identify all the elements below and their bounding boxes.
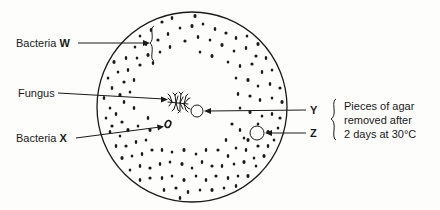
bacteria-dot: [135, 140, 138, 144]
label-fungus: Fungus: [18, 87, 55, 99]
bacteria-dot: [227, 154, 230, 158]
bacteria-dot: [245, 46, 248, 50]
bacteria-dot: [171, 16, 174, 20]
bacteria-dot: [233, 50, 236, 53]
bacteria-dot: [257, 85, 260, 88]
bacteria-dot: [237, 175, 240, 178]
bacteria-dot: [182, 178, 185, 182]
bacteria-dot: [280, 100, 283, 104]
bacteria-dot: [230, 123, 233, 126]
bacteria-dot: [262, 154, 265, 158]
bacteria-dot: [137, 125, 140, 128]
bacteria-dot: [253, 157, 256, 160]
bacteria-dot: [220, 43, 223, 47]
bacteria-dot: [210, 54, 213, 58]
note-line-1: Pieces of agar: [344, 100, 415, 112]
diagram-canvas: Bacteria W Fungus Y Z Bacteria X: [0, 0, 440, 210]
bacteria-dot: [224, 32, 227, 35]
bacteria-dot: [246, 174, 249, 178]
bacteria-dot: [146, 53, 149, 57]
fungus-mycelium-icon: [168, 92, 190, 113]
bacteria-dot: [248, 95, 251, 98]
bacteria-dot: [169, 161, 172, 164]
bacteria-dot: [152, 61, 155, 65]
bacteria-dot: [214, 27, 217, 31]
bacteria-dot: [243, 137, 246, 140]
bacteria-dot: [179, 27, 182, 30]
bacteria-dot: [129, 91, 132, 94]
bacteria-dot: [259, 98, 262, 102]
bacteria-dot: [182, 148, 185, 152]
bacteria-dot: [187, 190, 190, 194]
bacteria-dot: [271, 97, 274, 100]
bacteria-dot: [210, 188, 213, 192]
bacteria-dot: [278, 87, 281, 90]
bacteria-dot: [163, 188, 166, 192]
bacteria-dot: [159, 162, 162, 166]
bacteria-dot: [139, 35, 142, 38]
bacteria-dot: [245, 148, 248, 152]
bacteria-dot: [159, 51, 162, 54]
bacteria-dot: [105, 117, 108, 120]
bacteria-dot: [235, 147, 238, 150]
bacteria-dot: [250, 63, 253, 66]
bacteria-dot: [246, 138, 249, 142]
agar-hole-z: [250, 126, 264, 140]
bacteria-dot: [246, 78, 249, 82]
bacteria-dot: [150, 149, 153, 152]
arrowhead-bacteria-x: [157, 125, 164, 131]
bacteria-dot: [255, 165, 258, 168]
bacteria-dot: [278, 117, 281, 120]
bacteria-dot: [271, 69, 274, 72]
bacteria-dot: [227, 176, 230, 180]
note-line-2: removed after: [344, 114, 412, 126]
bacteria-dot: [160, 21, 163, 24]
bacteria-dot: [148, 177, 151, 180]
bacteria-dot: [256, 145, 259, 148]
bacteria-dot: [112, 60, 115, 64]
bacteria-dot: [193, 14, 196, 18]
bacteria-x-colony: [164, 120, 172, 129]
bacteria-dot: [179, 196, 182, 200]
bacteria-dot: [273, 139, 276, 142]
bacteria-dot: [257, 123, 260, 126]
bacteria-dot: [191, 167, 194, 170]
arrow-line-fungus: [58, 93, 164, 99]
bacteria-dot: [123, 100, 126, 104]
bacteria-dot: [115, 112, 118, 116]
arrow-line-y: [208, 110, 306, 111]
bacteria-dot: [117, 71, 120, 74]
bacteria-dot: [133, 78, 136, 82]
label-y: Y: [310, 104, 318, 116]
agar-plate-diagram: Bacteria W Fungus Y Z Bacteria X: [0, 0, 440, 210]
bacteria-dot: [139, 178, 142, 182]
bacteria-dot: [239, 128, 242, 132]
bacteria-dot: [110, 125, 113, 128]
bacteria-dot: [256, 42, 259, 46]
bacteria-dot: [120, 156, 123, 160]
bacteria-dot: [133, 106, 136, 110]
bacteria-dot: [195, 175, 198, 178]
bacteria-dot: [124, 145, 127, 148]
bacteria-dot: [136, 57, 139, 60]
bacteria-dot: [265, 56, 268, 60]
bacteria-dot: [119, 135, 122, 138]
bacteria-dot: [201, 160, 204, 164]
bacteria-dot: [239, 64, 242, 68]
bacteria-dot: [199, 51, 202, 54]
bacteria-dot: [223, 187, 226, 190]
bacteria-dot: [237, 92, 240, 96]
bacteria-dot: [156, 39, 159, 42]
bacteria-dot: [254, 55, 257, 58]
bacteria-dot: [107, 77, 110, 80]
bacteria-dot: [134, 46, 137, 49]
agar-hole-y: [191, 105, 203, 117]
bacteria-dot: [271, 112, 274, 116]
bacteria-dot: [122, 81, 125, 84]
bacteria-dot: [169, 45, 172, 49]
bacteria-dot: [161, 148, 164, 152]
label-bacteria-w: Bacteria W: [16, 37, 70, 49]
bacteria-dot: [167, 32, 170, 36]
bacteria-dot: [147, 116, 150, 120]
bacteria-dot: [227, 61, 230, 64]
